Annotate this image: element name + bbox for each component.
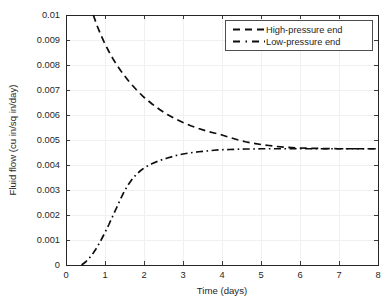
y-tick-label: 0.01 bbox=[42, 10, 60, 20]
y-tick-label: 0.002 bbox=[37, 210, 60, 220]
y-tick-label: 0.005 bbox=[37, 135, 60, 145]
figure-container: 012345678 00.0010.0020.0030.0040.0050.00… bbox=[0, 0, 391, 308]
x-tick-label: 0 bbox=[63, 270, 68, 280]
x-tick-label: 4 bbox=[219, 270, 224, 280]
x-tick-label: 1 bbox=[102, 270, 107, 280]
x-tick-label: 7 bbox=[336, 270, 341, 280]
y-tick-label: 0.004 bbox=[37, 160, 60, 170]
x-tick-label: 6 bbox=[297, 270, 302, 280]
x-tick-label: 2 bbox=[141, 270, 146, 280]
y-tick-label: 0.001 bbox=[37, 235, 60, 245]
legend[interactable]: High-pressure end Low-pressure end bbox=[226, 21, 373, 51]
x-tick-label: 8 bbox=[375, 270, 380, 280]
y-tick-label: 0.003 bbox=[37, 185, 60, 195]
y-tick-label: 0 bbox=[55, 260, 60, 270]
y-tick-label: 0.006 bbox=[37, 110, 60, 120]
y-axis-title: Fluid flow (cu in/sq in/day) bbox=[7, 85, 18, 196]
y-tick-label: 0.009 bbox=[37, 35, 60, 45]
x-tick-label: 5 bbox=[258, 270, 263, 280]
legend-label-high-pressure: High-pressure end bbox=[266, 25, 342, 35]
x-tick-label: 3 bbox=[180, 270, 185, 280]
y-tick-label: 0.008 bbox=[37, 60, 60, 70]
x-axis-title: Time (days) bbox=[197, 285, 247, 296]
legend-label-low-pressure: Low-pressure end bbox=[266, 37, 340, 47]
y-tick-label: 0.007 bbox=[37, 85, 60, 95]
chart-canvas: 012345678 00.0010.0020.0030.0040.0050.00… bbox=[0, 0, 391, 308]
